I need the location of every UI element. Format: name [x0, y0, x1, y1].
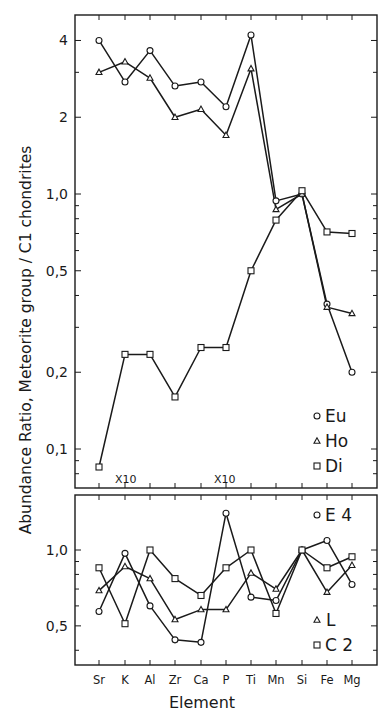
x-axis-tick-labels: SrKAlZrCaPTiMnSiFeMg — [93, 673, 361, 687]
circle-marker — [273, 198, 279, 204]
y-tick-label: 2 — [59, 109, 68, 125]
lower-plot-series — [96, 510, 355, 645]
x-tick-label: Al — [144, 673, 155, 687]
square-marker — [96, 565, 102, 571]
x-tick-label: Ti — [245, 673, 256, 687]
circle-marker — [349, 581, 355, 587]
circle-marker — [248, 594, 254, 600]
square-marker — [324, 565, 330, 571]
series-line-c2 — [99, 550, 352, 624]
square-marker — [223, 565, 229, 571]
x-tick-label: Zr — [169, 673, 182, 687]
x-tick-label: Sr — [93, 673, 105, 687]
circle-marker — [198, 639, 204, 645]
annotation-x10-p: X10 — [214, 473, 236, 486]
circle-marker — [324, 538, 330, 544]
square-marker — [299, 547, 305, 553]
y-tick-label: 0,5 — [46, 263, 68, 279]
x-tick-label: Fe — [320, 673, 333, 687]
circle-marker — [314, 512, 320, 518]
square-marker — [299, 188, 305, 194]
x-tick-label: Ca — [193, 673, 208, 687]
legend-entry: Ho — [325, 431, 348, 451]
upper-legend: EuHoDi — [314, 406, 348, 476]
square-marker — [314, 642, 320, 648]
triangle-marker — [198, 606, 204, 611]
triangle-marker — [349, 562, 355, 567]
circle-marker — [147, 603, 153, 609]
triangle-marker — [349, 310, 355, 315]
x-tick-label: Mg — [343, 673, 360, 687]
square-marker — [172, 576, 178, 582]
y-tick-label: 0,1 — [46, 441, 68, 457]
circle-marker — [223, 104, 229, 110]
legend-entry: Eu — [325, 406, 347, 426]
y-tick-label: 1,0 — [46, 542, 68, 558]
square-marker — [324, 229, 330, 235]
square-marker — [248, 547, 254, 553]
x-axis-label: Element — [169, 693, 235, 712]
square-marker — [248, 268, 254, 274]
circle-marker — [122, 550, 128, 556]
circle-marker — [147, 48, 153, 54]
triangle-marker — [314, 617, 320, 622]
square-marker — [273, 610, 279, 616]
x-tick-label: P — [223, 673, 230, 687]
series-line-di — [99, 191, 352, 467]
x-tick-label: K — [121, 673, 129, 687]
y-tick-label: 1,0 — [46, 186, 68, 202]
legend-entry: Di — [325, 456, 343, 476]
triangle-marker — [273, 206, 279, 211]
circle-marker — [314, 413, 320, 419]
circle-marker — [122, 79, 128, 85]
square-marker — [273, 217, 279, 223]
x-tick-label: Si — [297, 673, 308, 687]
square-marker — [147, 351, 153, 357]
series-line-ho — [99, 62, 352, 314]
circle-marker — [349, 369, 355, 375]
triangle-marker — [122, 563, 128, 568]
triangle-marker — [122, 59, 128, 64]
square-marker — [122, 621, 128, 627]
square-marker — [96, 464, 102, 470]
square-marker — [349, 554, 355, 560]
square-marker — [198, 345, 204, 351]
series-line-e4 — [99, 513, 352, 642]
series-line-eu — [99, 35, 352, 372]
triangle-marker — [314, 438, 320, 443]
y-axis-label: Abundance Ratio, Meteorite group / C1 ch… — [17, 146, 35, 535]
triangle-marker — [147, 75, 153, 80]
triangle-marker — [248, 66, 254, 71]
circle-marker — [96, 609, 102, 615]
y-tick-label: 0,2 — [46, 364, 68, 380]
triangle-marker — [96, 69, 102, 74]
upper-plot-series — [96, 32, 355, 470]
chart-figure: 0,10,20,51,024 0,51,0 SrKAlZrCaPTiMnSiFe… — [0, 0, 390, 722]
circle-marker — [248, 32, 254, 38]
x-tick-label: Mn — [267, 673, 284, 687]
triangle-marker — [248, 570, 254, 575]
circle-marker — [172, 83, 178, 89]
circle-marker — [96, 37, 102, 43]
square-marker — [349, 231, 355, 237]
triangle-marker — [147, 575, 153, 580]
legend-entry: E 4 — [325, 505, 352, 525]
square-marker — [198, 592, 204, 598]
circle-marker — [198, 79, 204, 85]
square-marker — [223, 345, 229, 351]
y-tick-label: 4 — [59, 32, 68, 48]
circle-marker — [223, 510, 229, 516]
square-marker — [122, 351, 128, 357]
square-marker — [147, 547, 153, 553]
square-marker — [172, 394, 178, 400]
circle-marker — [172, 637, 178, 643]
legend-entry: C 2 — [325, 635, 353, 655]
annotation-x10-k: X10 — [115, 473, 137, 486]
y-tick-label: 0,5 — [46, 618, 68, 634]
circle-marker — [273, 598, 279, 604]
triangle-marker — [198, 106, 204, 111]
legend-entry: L — [326, 610, 336, 630]
square-marker — [314, 463, 320, 469]
